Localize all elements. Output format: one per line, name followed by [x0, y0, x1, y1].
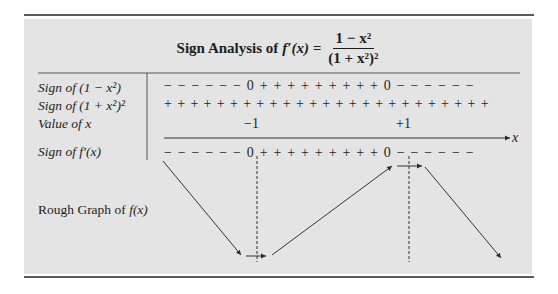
increasing-segment: [272, 166, 392, 255]
decreasing-segment-left: [163, 161, 241, 255]
diagram-lines: [0, 0, 558, 294]
decreasing-segment-right: [425, 167, 501, 258]
